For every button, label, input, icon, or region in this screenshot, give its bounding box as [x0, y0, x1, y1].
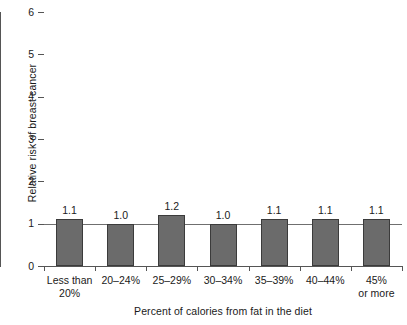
- bar: [210, 224, 237, 266]
- y-axis-line: [0, 12, 1, 267]
- y-tick-mark: [38, 12, 44, 13]
- x-tick-mark: [300, 266, 301, 271]
- bar-value-label: 1.0: [203, 210, 243, 221]
- x-tick-label: 35–39%: [249, 274, 300, 287]
- bar-value-label: 1.2: [152, 201, 192, 212]
- x-tick-mark: [351, 266, 352, 271]
- bar: [312, 219, 339, 266]
- x-tick-label: 40–44%: [300, 274, 351, 287]
- bar-value-label: 1.1: [356, 205, 396, 216]
- bar-chart: Relative risk of breast cancer 0123456 1…: [0, 0, 407, 325]
- x-tick-mark: [146, 266, 147, 271]
- y-tick-label: 4: [6, 91, 34, 102]
- bar: [107, 224, 134, 266]
- y-tick-label: 6: [6, 7, 34, 18]
- y-tick-label: 0: [6, 261, 34, 272]
- x-tick-mark: [44, 266, 45, 271]
- x-tick-mark: [95, 266, 96, 271]
- x-tick-label: Less than 20%: [44, 274, 95, 299]
- y-tick-label: 5: [6, 49, 34, 60]
- y-tick-label: 1: [6, 218, 34, 229]
- y-tick-mark: [38, 97, 44, 98]
- bar-value-label: 1.0: [101, 210, 141, 221]
- y-tick-mark: [38, 54, 44, 55]
- bar: [363, 219, 390, 266]
- y-tick-mark: [38, 139, 44, 140]
- y-tick-mark: [38, 181, 44, 182]
- x-tick-mark: [402, 266, 403, 271]
- x-axis-line: [44, 266, 402, 267]
- bar-value-label: 1.1: [305, 205, 345, 216]
- x-axis-title: Percent of calories from fat in the diet: [44, 305, 402, 317]
- x-tick-label: 45% or more: [351, 274, 402, 299]
- x-tick-label: 30–34%: [197, 274, 248, 287]
- bar: [261, 219, 288, 266]
- y-tick-label: 2: [6, 176, 34, 187]
- x-tick-mark: [197, 266, 198, 271]
- bar-value-label: 1.1: [254, 205, 294, 216]
- x-tick-label: 20–24%: [95, 274, 146, 287]
- bar: [158, 215, 185, 266]
- x-tick-label: 25–29%: [146, 274, 197, 287]
- y-tick-label: 3: [6, 134, 34, 145]
- bar-value-label: 1.1: [50, 205, 90, 216]
- x-tick-mark: [249, 266, 250, 271]
- bar: [56, 219, 83, 266]
